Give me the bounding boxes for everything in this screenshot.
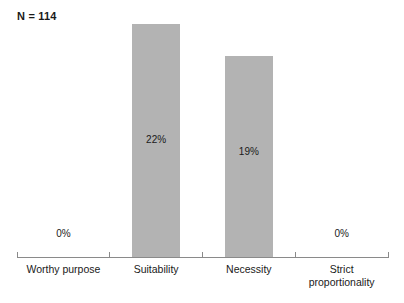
x-axis-tick: [295, 252, 296, 258]
bar-value-label: 22%: [146, 134, 166, 145]
bar-value-label: 19%: [239, 146, 259, 157]
x-axis-tick: [17, 252, 18, 258]
x-axis-tick: [388, 252, 389, 258]
x-axis-tick: [109, 252, 110, 258]
bar-slot-suitability: 22%: [110, 8, 203, 257]
bar-value-label: 0%: [334, 228, 348, 239]
plot-area: 0% 22% 19% 0%: [17, 8, 388, 257]
x-axis-tick: [202, 252, 203, 258]
x-axis-label-worthy-purpose: Worthy purpose: [17, 263, 110, 276]
x-axis-label-line: Suitability: [134, 263, 179, 275]
bar-rect: 19%: [225, 56, 273, 257]
x-axis-label-necessity: Necessity: [203, 263, 296, 276]
x-axis-label-line: Strict: [330, 263, 354, 275]
bar-value-label: 0%: [56, 228, 70, 239]
bar-slot-necessity: 19%: [203, 8, 296, 257]
bar-slot-strict-proportionality: 0%: [295, 8, 388, 257]
x-axis-label-line: Worthy purpose: [26, 263, 100, 275]
x-axis-label-suitability: Suitability: [110, 263, 203, 276]
x-axis-label-line: Necessity: [226, 263, 272, 275]
x-axis-label-strict-proportionality: Strict proportionality: [295, 263, 388, 289]
bar-chart-figure: N = 114 0% 22% 19% 0% Worthy purpos: [0, 0, 404, 303]
bar-rect: 22%: [132, 24, 180, 257]
bar-slot-worthy-purpose: 0%: [17, 8, 110, 257]
x-axis-label-line: proportionality: [295, 276, 388, 289]
x-axis-tick-labels: Worthy purpose Suitability Necessity Str…: [17, 263, 388, 303]
